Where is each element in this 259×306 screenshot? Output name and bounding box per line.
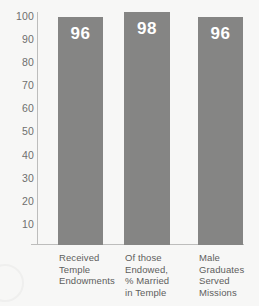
bar-value-label-1: 96 bbox=[58, 24, 103, 44]
category-label-line: Graduates bbox=[199, 264, 259, 276]
bar-series: 96 98 96 bbox=[0, 0, 259, 248]
bar-value-label-2: 98 bbox=[124, 19, 170, 39]
bar-male-graduates-served-missions[interactable]: 96 bbox=[198, 17, 243, 245]
category-label-line: Of those bbox=[125, 252, 189, 264]
plot-area: 100 90 80 70 60 50 40 30 20 10 96 98 96 bbox=[0, 0, 259, 248]
category-label-line: % Married bbox=[125, 275, 189, 287]
bar-chart: 100 90 80 70 60 50 40 30 20 10 96 98 96 … bbox=[0, 0, 259, 306]
category-label-line: in Temple bbox=[125, 287, 189, 299]
category-label-line: Missions bbox=[199, 287, 259, 299]
category-label-line: Endowed, bbox=[125, 264, 189, 276]
category-label-male-graduates-served-missions: Male Graduates Served Missions bbox=[199, 252, 259, 298]
category-label-line: Endowments bbox=[59, 275, 121, 287]
category-label-line: Served bbox=[199, 275, 259, 287]
category-label-of-those-endowed-married-in-temple: Of those Endowed, % Married in Temple bbox=[125, 252, 189, 298]
bar-received-temple-endowments[interactable]: 96 bbox=[58, 17, 103, 245]
category-label-line: Received bbox=[59, 252, 121, 264]
bar-of-those-endowed-married-in-temple[interactable]: 98 bbox=[124, 12, 170, 245]
x-axis-category-labels: Received Temple Endowments Of those Endo… bbox=[0, 252, 259, 306]
category-label-line: Temple bbox=[59, 264, 121, 276]
bar-value-label-3: 96 bbox=[198, 24, 243, 44]
category-label-received-temple-endowments: Received Temple Endowments bbox=[59, 252, 121, 287]
category-label-line: Male bbox=[199, 252, 259, 264]
